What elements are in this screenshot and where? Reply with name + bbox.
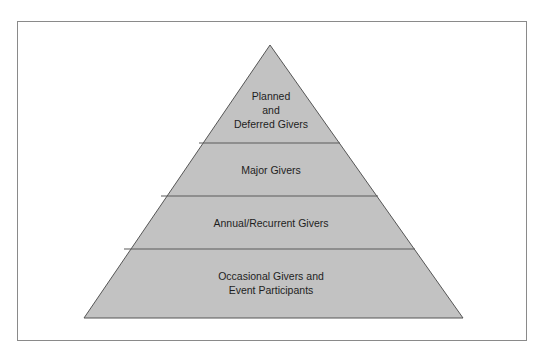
tier-label-line: Deferred Givers xyxy=(234,117,308,131)
tier-occasional-givers-event-participants: Occasional Givers and Event Participants xyxy=(218,269,324,297)
tier-annual-recurrent-givers: Annual/Recurrent Givers xyxy=(214,216,329,230)
tier-label-line: Occasional Givers and xyxy=(218,269,324,283)
tier-planned-deferred-givers: Planned and Deferred Givers xyxy=(234,89,308,131)
tier-label-line: Annual/Recurrent Givers xyxy=(214,216,329,230)
tier-label-line: Event Participants xyxy=(218,283,324,297)
tier-label-line: Planned xyxy=(234,89,308,103)
tier-label-line: Major Givers xyxy=(241,163,301,177)
giving-pyramid xyxy=(0,0,542,360)
tier-label-line: and xyxy=(234,103,308,117)
tier-major-givers: Major Givers xyxy=(241,163,301,177)
